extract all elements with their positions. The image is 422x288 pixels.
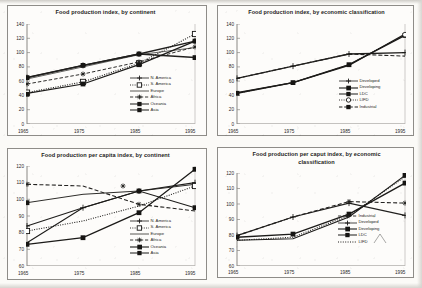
ytick-label: 120	[6, 36, 24, 41]
xtick-label: 1965	[228, 270, 238, 275]
chart-grid: Food production index, by continent	[0, 0, 422, 288]
legend-item-asia[interactable]: Asia	[130, 250, 171, 256]
ytick-label: 80	[216, 233, 234, 238]
legend-key-filled-square-solid	[338, 232, 357, 238]
ytick-label: 90	[6, 214, 24, 219]
legend-key-plus-line	[339, 78, 358, 84]
ytick-label: 110	[216, 186, 234, 191]
xtick-label: 1995	[185, 129, 195, 134]
ytick-label: 120	[216, 171, 234, 176]
ytick-label: 140	[6, 22, 24, 27]
ytick-label: 120	[6, 164, 24, 169]
legend-key-filled-square-solid	[339, 91, 358, 97]
plot-svg-top-right	[236, 24, 406, 124]
legend-key-filled-square-solid	[338, 226, 357, 232]
ytick-label: 80	[6, 230, 24, 235]
xtick-label: 1965	[18, 129, 28, 134]
ytick-label: 20	[6, 107, 24, 112]
plot-svg-bottom-right	[236, 173, 406, 266]
legend-key-plus-line	[130, 218, 149, 224]
legend-label: Asia	[151, 250, 159, 256]
chart-panel-top-right: Food production index, by economic class…	[211, 0, 422, 144]
scanned-page: Food production index, by continent	[0, 0, 422, 288]
legend-key-asterisk-dashed	[130, 237, 149, 243]
xtick-label: 1985	[340, 129, 350, 134]
scan-edge-shadow-right	[417, 0, 422, 288]
xtick-label: 1975	[284, 270, 294, 275]
ytick-label: 0	[6, 122, 24, 127]
ytick-label: 80	[6, 64, 24, 69]
legend-label: Asia	[151, 107, 159, 113]
ytick-label: 80	[216, 64, 234, 69]
legend-key-filled-square-solid	[130, 107, 149, 113]
legend-key-filled-square-solid	[339, 85, 358, 91]
ytick-label: 110	[6, 180, 24, 185]
chart-panel-bottom-left: Food production per capita index, by con…	[0, 144, 211, 288]
ytick-label: 60	[216, 79, 234, 84]
legend-key-plus-line	[338, 220, 357, 226]
chart-panel-top-left: Food production index, by continent	[0, 0, 211, 144]
ytick-label: 70	[6, 247, 24, 252]
xtick-label: 1995	[395, 129, 405, 134]
legend-key-dotted-line	[338, 239, 357, 245]
xtick-label: 1985	[340, 270, 350, 275]
legend-bottom-left: N. America S. America Europe Africa Ocea…	[130, 218, 171, 256]
legend-key-filled-square-solid	[130, 250, 149, 256]
plot-area-top-right	[236, 24, 406, 124]
xtick-label: 1965	[228, 129, 238, 134]
legend-key-filled-square-solid	[130, 244, 149, 250]
legend-item-asia[interactable]: Asia	[130, 107, 171, 113]
legend-key-filled-square-solid	[130, 101, 149, 107]
scan-edge-shadow-bottom	[0, 283, 422, 288]
legend-key-open-square-dotted	[130, 225, 149, 231]
legend-key-filled-square-dashed	[339, 104, 358, 110]
ytick-label: 100	[6, 197, 24, 202]
ytick-label: 90	[216, 217, 234, 222]
ytick-label: 140	[216, 22, 234, 27]
ytick-label: 40	[216, 93, 234, 98]
legend-key-asterisk-dashed	[338, 213, 357, 219]
legend-key-open-circle-dotted	[339, 97, 358, 103]
xtick-label: 1995	[185, 271, 195, 276]
xtick-label: 1975	[74, 271, 84, 276]
xtick-label: 1965	[18, 271, 28, 276]
legend-top-left: N. America S. America Europe Africa Ocea…	[130, 75, 171, 113]
xtick-label: 1975	[284, 129, 294, 134]
legend-top-right: Developed Developing LDC LIFD Industrial	[339, 78, 380, 110]
xtick-label: 1995	[395, 270, 405, 275]
legend-label: LIFD	[359, 239, 368, 245]
chart-title-bottom-right: Food production per caput index, by econ…	[211, 151, 422, 166]
chart-title-top-right: Food production index, by economic class…	[211, 9, 422, 17]
xtick-label: 1985	[130, 129, 140, 134]
legend-key-asterisk-dashed	[130, 94, 149, 100]
xtick-label: 1975	[74, 129, 84, 134]
ytick-label: 60	[6, 264, 24, 269]
ytick-label: 100	[216, 202, 234, 207]
legend-bottom-right: Industrial Developed Developing LDC LIFD	[338, 213, 379, 245]
legend-label: Industrial	[360, 104, 377, 110]
chart-title-top-left: Food production index, by continent	[0, 9, 211, 17]
scan-edge-shadow-top	[0, 0, 422, 4]
legend-item-lifd[interactable]: LIFD	[338, 239, 379, 245]
ytick-label: 100	[216, 50, 234, 55]
legend-item-industrial[interactable]: Industrial	[339, 104, 380, 110]
chart-panel-bottom-right: Food production per caput index, by econ…	[211, 144, 422, 288]
xtick-label: 1985	[130, 271, 140, 276]
legend-key-open-square-dotted	[130, 82, 149, 88]
ytick-label: 60	[216, 264, 234, 269]
ytick-label: 20	[216, 107, 234, 112]
legend-key-plus-line	[130, 75, 149, 81]
legend-key-solid-line	[130, 231, 149, 237]
legend-key-solid-line	[130, 88, 149, 94]
ytick-label: 60	[6, 79, 24, 84]
ytick-label: 0	[216, 122, 234, 127]
chart-title-line-1: Food production per caput index, by econ…	[211, 151, 422, 159]
ytick-label: 70	[216, 248, 234, 253]
chart-title-bottom-left: Food production per capita index, by con…	[0, 152, 211, 160]
ytick-label: 40	[6, 93, 24, 98]
ytick-label: 120	[216, 36, 234, 41]
ytick-label: 100	[6, 50, 24, 55]
chart-title-line-2: classification	[211, 159, 422, 167]
plot-area-bottom-right	[236, 173, 406, 266]
